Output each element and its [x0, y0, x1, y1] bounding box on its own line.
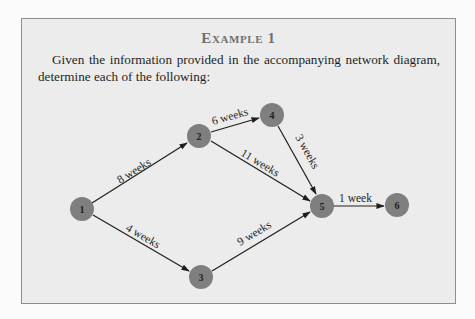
node-3: 3 — [189, 265, 213, 289]
node-2-label: 2 — [197, 131, 202, 142]
node-3-label: 3 — [199, 272, 204, 283]
page: Example 1 Given the information provided… — [0, 0, 475, 319]
edge-label-3-5: 9 weeks — [235, 218, 274, 248]
node-6-label: 6 — [395, 200, 400, 211]
edge-label-5-6: 1 week — [339, 192, 372, 204]
node-5: 5 — [310, 194, 334, 218]
node-1: 1 — [70, 197, 94, 221]
edge-label-1-2: 8 weeks — [115, 155, 153, 185]
edge-2-5 — [211, 141, 310, 201]
node-6: 6 — [385, 193, 409, 217]
node-1-label: 1 — [80, 204, 85, 215]
network-diagram: 8 weeks 4 weeks 6 weeks 11 weeks 3 weeks… — [0, 0, 475, 319]
edge-label-2-4: 6 weeks — [210, 105, 250, 127]
node-5-label: 5 — [320, 201, 325, 212]
edge-labels: 8 weeks 4 weeks 6 weeks 11 weeks 3 weeks… — [115, 105, 372, 251]
node-4-label: 4 — [270, 110, 275, 121]
edge-1-3 — [93, 215, 189, 271]
edge-label-2-5: 11 weeks — [239, 146, 282, 179]
edge-label-4-5: 3 weeks — [293, 132, 322, 171]
node-4: 4 — [260, 103, 284, 127]
node-2: 2 — [187, 124, 211, 148]
